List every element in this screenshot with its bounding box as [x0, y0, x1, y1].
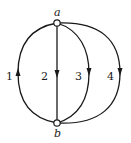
- edge-3-label: 3: [75, 70, 82, 83]
- edge-1: [18, 23, 57, 123]
- node-b: [54, 120, 60, 126]
- node-a: [54, 20, 60, 26]
- edge-1-arrow-icon: [16, 68, 21, 76]
- edge-4-label: 4: [107, 70, 114, 83]
- graph-diagram: a b 1 2 3 4: [0, 0, 131, 143]
- node-a-label: a: [54, 6, 61, 19]
- edge-1-label: 1: [6, 70, 13, 83]
- edge-3-arrow-icon: [87, 68, 92, 76]
- edge-2-label: 2: [41, 70, 48, 83]
- node-b-label: b: [54, 127, 61, 140]
- edge-4-arrow-icon: [118, 68, 123, 76]
- edge-3: [57, 23, 89, 123]
- edge-2-arrow-icon: [55, 70, 60, 78]
